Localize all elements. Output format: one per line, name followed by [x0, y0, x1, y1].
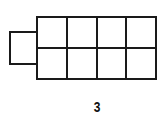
tab-square [10, 32, 37, 64]
net-diagram [0, 0, 168, 119]
figure-label: 3 [89, 97, 105, 117]
